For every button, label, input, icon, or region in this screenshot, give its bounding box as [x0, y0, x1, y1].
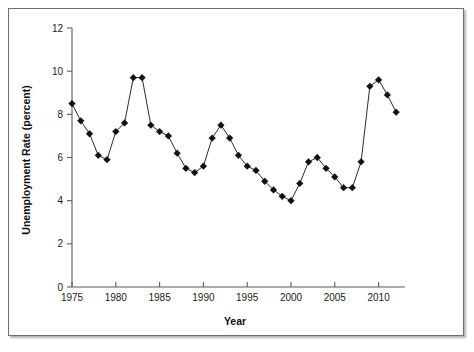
data-point-marker: 2007: 4.6	[349, 184, 356, 191]
data-point-marker: 1975: 8.5	[69, 100, 76, 107]
x-axis: 19751980198519901995200020052010	[61, 282, 405, 303]
data-point-marker: 1991: 6.9	[209, 135, 216, 142]
y-tick-label: 2	[57, 238, 63, 249]
x-tick-label: 2005	[324, 292, 347, 303]
y-tick-label: 12	[52, 23, 64, 34]
data-point-marker: 2000: 4	[288, 197, 295, 204]
y-axis-title: Unemployment Rate (percent)	[20, 85, 32, 234]
y-tick-label: 6	[57, 152, 63, 163]
data-point-marker: 2012: 8.1	[393, 109, 400, 116]
x-tick-label: 1990	[192, 292, 215, 303]
data-point-marker: 1992: 7.5	[218, 122, 225, 129]
data-point-marker: 1976: 7.7	[77, 117, 84, 124]
data-point-marker: 1990: 5.6	[200, 163, 207, 170]
data-series-unemployment-rate: 1975: 8.51976: 7.71977: 7.11978: 6.11979…	[69, 74, 400, 204]
y-axis: 024681012	[52, 23, 72, 293]
y-tick-label: 4	[57, 195, 63, 206]
data-point-marker: 2001: 4.8	[296, 180, 303, 187]
data-point-marker: 1986: 7	[165, 133, 172, 140]
data-point-marker: 1983: 9.7	[139, 74, 146, 81]
data-point-marker: 2011: 8.9	[384, 92, 391, 99]
x-tick-label: 2010	[367, 292, 390, 303]
data-point-marker: 1999: 4.2	[279, 193, 286, 200]
data-point-marker: 2009: 9.3	[366, 83, 373, 90]
x-tick-label: 1980	[105, 292, 128, 303]
y-tick-label: 8	[57, 109, 63, 120]
x-tick-label: 1975	[61, 292, 84, 303]
x-tick-label: 1995	[236, 292, 259, 303]
data-point-marker: 2002: 5.8	[305, 158, 312, 165]
data-point-marker: 1979: 5.9	[104, 156, 111, 163]
data-point-marker: 1977: 7.1	[86, 130, 93, 137]
x-axis-title: Year	[224, 315, 246, 327]
x-tick-label: 2000	[280, 292, 303, 303]
data-point-marker: 1978: 6.1	[95, 152, 102, 159]
y-tick-label: 0	[57, 282, 63, 293]
data-point-marker: 1987: 6.2	[174, 150, 181, 157]
x-tick-label: 1985	[148, 292, 171, 303]
data-point-marker: 2008: 5.8	[358, 158, 365, 165]
chart-plot-area: 024681012 197519801985199019952000200520…	[0, 0, 474, 352]
y-tick-label: 10	[52, 66, 64, 77]
chart-figure: 024681012 197519801985199019952000200520…	[0, 0, 474, 352]
data-point-marker: 1988: 5.5	[182, 165, 189, 172]
data-point-marker: 1985: 7.2	[156, 128, 163, 135]
data-point-marker: 1982: 9.7	[130, 74, 137, 81]
data-point-marker: 1993: 6.9	[226, 135, 233, 142]
